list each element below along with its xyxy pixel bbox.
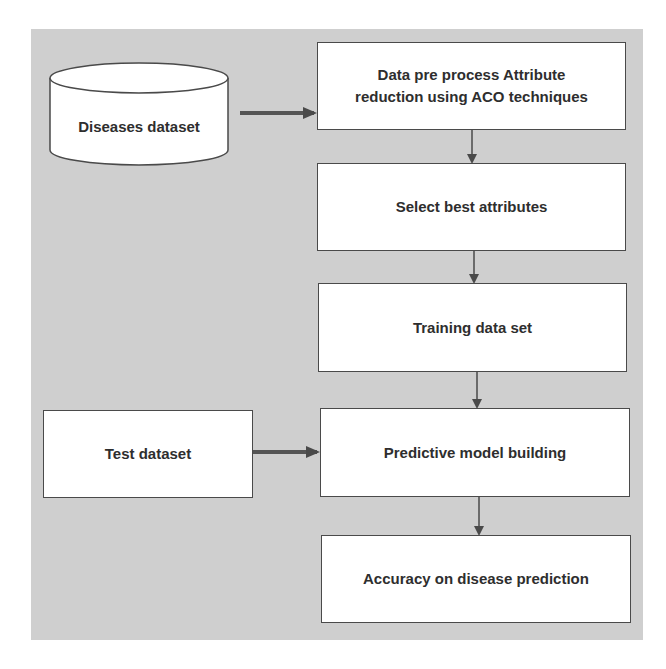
accuracy-label: Accuracy on disease prediction (363, 568, 589, 590)
diseases-dataset-label: Diseases dataset (50, 118, 228, 135)
test-dataset-label: Test dataset (105, 443, 191, 465)
select-attributes-label: Select best attributes (396, 196, 548, 218)
model-building-box: Predictive model building (320, 408, 630, 497)
select-attributes-box: Select best attributes (317, 163, 626, 251)
training-label: Training data set (413, 317, 532, 339)
test-dataset-box: Test dataset (43, 410, 253, 498)
preprocess-label-line1: Data pre process Attribute (355, 64, 588, 86)
preprocess-label-line2: reduction using ACO techniques (355, 86, 588, 108)
training-box: Training data set (318, 283, 627, 372)
accuracy-box: Accuracy on disease prediction (321, 535, 631, 623)
preprocess-box: Data pre process Attribute reduction usi… (317, 42, 626, 130)
database-cylinder-icon (50, 63, 228, 165)
model-building-label: Predictive model building (384, 442, 567, 464)
